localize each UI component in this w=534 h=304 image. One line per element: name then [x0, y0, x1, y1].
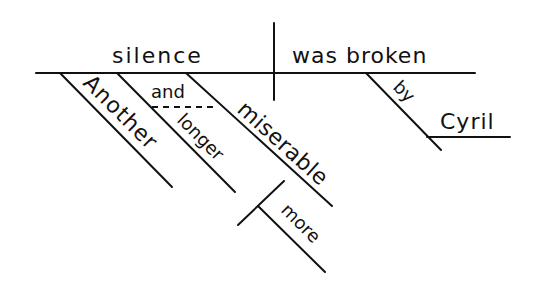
modifier-word-miserable: miserable	[233, 96, 334, 190]
modifier-word-more: more	[277, 199, 325, 247]
verb-word: was broken	[292, 43, 427, 68]
conjunction-word-and: and	[151, 81, 185, 102]
sentence-diagram: silence was broken Another and longer mi…	[0, 0, 534, 304]
more-connector-line	[238, 181, 284, 225]
object-word-cyril: Cyril	[440, 109, 495, 134]
subject-word: silence	[112, 43, 203, 68]
